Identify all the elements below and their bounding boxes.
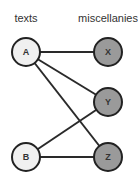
- node-label: Y: [105, 97, 111, 107]
- node-label: Z: [105, 152, 111, 162]
- node-z: Z: [94, 143, 122, 171]
- node-b: B: [12, 143, 40, 171]
- node-x: X: [94, 38, 122, 66]
- node-label: B: [23, 152, 30, 162]
- node-y: Y: [94, 88, 122, 116]
- column-label-miscellanies: miscellanies: [78, 12, 138, 24]
- node-label: A: [23, 47, 30, 57]
- bipartite-graph: texts miscellanies ABXYZ: [0, 0, 138, 187]
- node-label: X: [105, 47, 111, 57]
- column-label-texts: texts: [14, 12, 38, 24]
- node-a: A: [12, 38, 40, 66]
